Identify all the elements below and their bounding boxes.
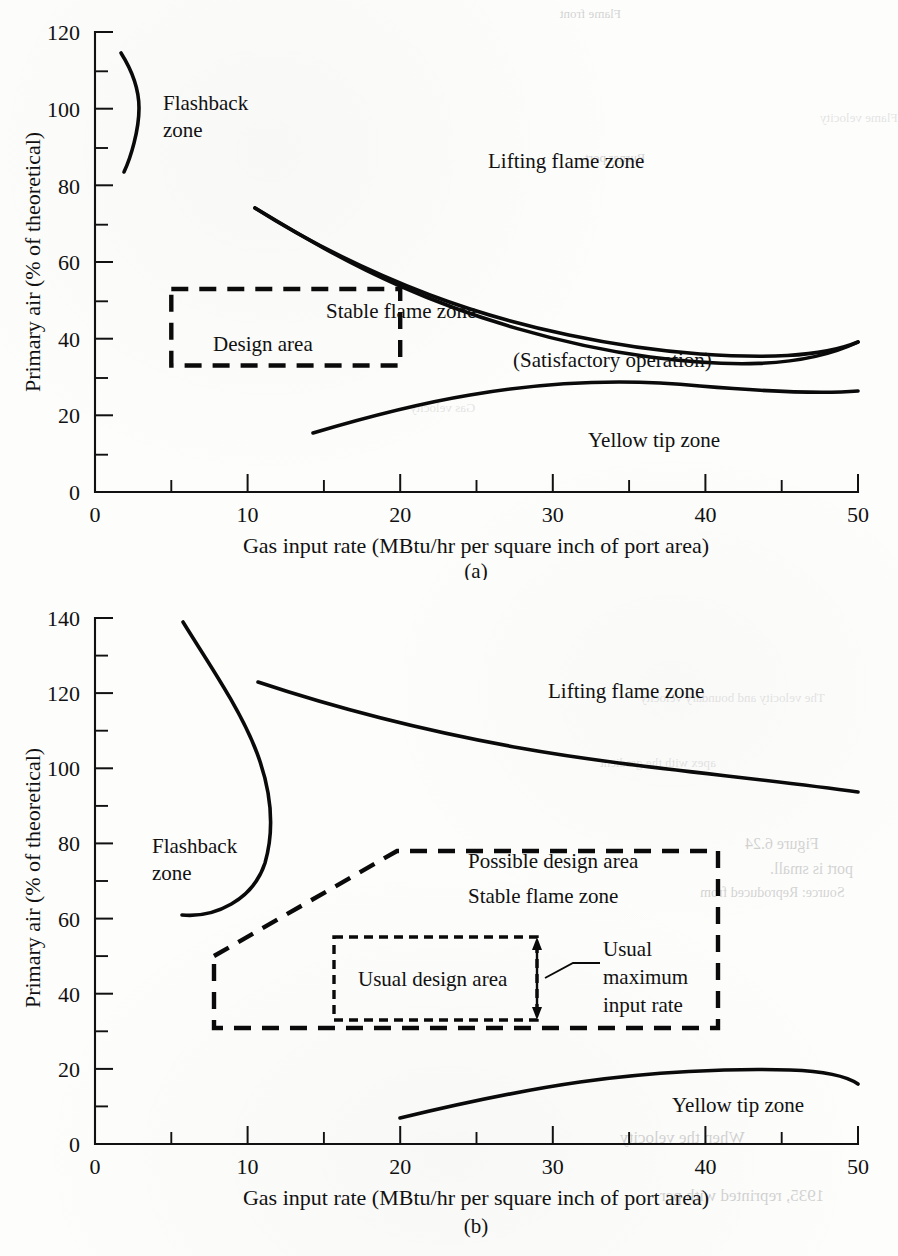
y-tick-label-b-80: 80 xyxy=(58,831,80,856)
x-tick-label-a-0: 0 xyxy=(90,502,101,527)
axis-b xyxy=(95,618,858,1144)
flashback-label-a-line1: Flashback xyxy=(163,91,249,115)
y-tick-label-a-0: 0 xyxy=(69,480,80,505)
x-tick-label-b-0: 0 xyxy=(90,1154,101,1179)
lifting-flame-curve-a2 xyxy=(255,208,858,356)
plot-a-svg: 0 20 40 60 80 100 120 0 10 20 30 40 50 P… xyxy=(0,0,897,580)
lifting-flame-label-b: Lifting flame zone xyxy=(548,679,704,703)
stable-flame-label-b: Stable flame zone xyxy=(468,884,618,908)
y-tick-label-a-60: 60 xyxy=(58,250,80,275)
usual-max-label-b-line2: maximum xyxy=(603,965,688,989)
x-tick-label-a-40: 40 xyxy=(694,502,716,527)
x-tick-label-a-50: 50 xyxy=(847,502,869,527)
y-ticks-b xyxy=(95,618,113,1144)
y-tick-label-b-120: 120 xyxy=(47,681,80,706)
design-area-label-a: Design area xyxy=(213,332,313,356)
usual-maximum-input-rate-arrow-b xyxy=(532,937,600,1020)
usual-design-area-label-b: Usual design area xyxy=(358,967,508,991)
x-ticks-a xyxy=(95,474,858,492)
y-tick-label-b-60: 60 xyxy=(58,907,80,932)
y-tick-label-b-40: 40 xyxy=(58,982,80,1007)
x-tick-label-a-20: 20 xyxy=(389,502,411,527)
flashback-label-b-line2: zone xyxy=(152,861,192,885)
subcaption-a: (a) xyxy=(464,559,487,580)
yellow-tip-curve-a xyxy=(313,382,858,433)
chart-panel-a: 0 20 40 60 80 100 120 0 10 20 30 40 50 P… xyxy=(0,0,897,580)
chart-panel-b: 0 20 40 60 80 100 120 140 0 10 20 30 40 … xyxy=(0,578,897,1256)
x-tick-label-b-40: 40 xyxy=(694,1154,716,1179)
plot-b-svg: 0 20 40 60 80 100 120 140 0 10 20 30 40 … xyxy=(0,578,897,1256)
x-tick-label-a-10: 10 xyxy=(237,502,259,527)
lifting-flame-label-a: Lifting flame zone xyxy=(488,149,644,173)
flashback-curve-b xyxy=(182,622,271,915)
flashback-label-a-line2: zone xyxy=(163,118,203,142)
usual-max-label-b-line1: Usual xyxy=(603,937,652,961)
flashback-label-b-line1: Flashback xyxy=(152,834,238,858)
y-tick-label-b-140: 140 xyxy=(47,606,80,631)
axis-lines-b xyxy=(95,618,858,1144)
yellow-tip-label-a: Yellow tip zone xyxy=(588,428,720,452)
x-axis-title-b: Gas input rate (MBtu/hr per square inch … xyxy=(243,1185,709,1210)
y-tick-label-a-100: 100 xyxy=(47,97,80,122)
x-tick-label-b-10: 10 xyxy=(237,1154,259,1179)
subcaption-b: (b) xyxy=(464,1214,489,1238)
y-ticks-a xyxy=(95,32,113,492)
x-tick-label-b-50: 50 xyxy=(847,1154,869,1179)
satisfactory-operation-label-a: (Satisfactory operation) xyxy=(513,348,712,372)
stable-flame-label-a: Stable flame zone xyxy=(326,299,476,323)
y-axis-title-a: Primary air (% of theoretical) xyxy=(20,132,45,392)
y-tick-label-b-100: 100 xyxy=(47,756,80,781)
y-tick-label-a-40: 40 xyxy=(58,327,80,352)
x-ticks-b xyxy=(95,1126,858,1144)
x-tick-label-a-30: 30 xyxy=(542,502,564,527)
y-axis-title-b: Primary air (% of theoretical) xyxy=(20,748,45,1008)
possible-design-area-label-b: Possible design area xyxy=(468,849,639,873)
y-tick-label-b-0: 0 xyxy=(69,1132,80,1157)
x-tick-label-b-20: 20 xyxy=(389,1154,411,1179)
yellow-tip-label-b: Yellow tip zone xyxy=(672,1093,804,1117)
y-tick-label-a-120: 120 xyxy=(47,20,80,45)
y-tick-label-a-80: 80 xyxy=(58,174,80,199)
y-tick-label-a-20: 20 xyxy=(58,403,80,428)
x-axis-title-a: Gas input rate (MBtu/hr per square inch … xyxy=(243,533,709,558)
lifting-flame-curve-a xyxy=(255,208,858,364)
usual-max-label-b-line3: input rate xyxy=(603,993,683,1017)
y-tick-label-b-20: 20 xyxy=(58,1057,80,1082)
flashback-curve-a xyxy=(121,53,139,172)
x-tick-label-b-30: 30 xyxy=(542,1154,564,1179)
